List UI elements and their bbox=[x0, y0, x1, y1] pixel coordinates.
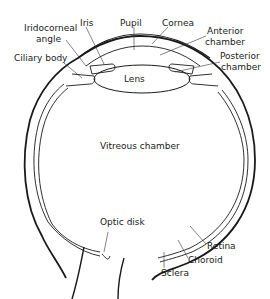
leader-retina bbox=[190, 226, 206, 244]
leader-ciliary bbox=[64, 63, 82, 78]
leader-iridocorneal bbox=[66, 40, 86, 66]
label-pupil: Pupil bbox=[120, 18, 142, 28]
label-anterior-1: Anterior bbox=[207, 26, 244, 36]
label-iridocorneal-2: angle bbox=[36, 34, 61, 44]
ciliary-body-left bbox=[66, 74, 95, 86]
label-anterior-2: chamber bbox=[205, 37, 245, 47]
leader-posterior bbox=[175, 62, 220, 72]
ciliary-body-right bbox=[189, 74, 218, 86]
label-cornea: Cornea bbox=[162, 18, 194, 28]
choroid-layer-right bbox=[158, 92, 244, 258]
iris-left bbox=[90, 64, 115, 74]
label-ciliary-body: Ciliary body bbox=[14, 53, 68, 63]
label-lens: Lens bbox=[124, 74, 145, 84]
label-sclera: Sclera bbox=[161, 268, 189, 278]
label-iris: Iris bbox=[80, 18, 94, 28]
label-retina: Retina bbox=[207, 241, 236, 251]
choroid-layer bbox=[34, 84, 64, 222]
label-posterior-2: chamber bbox=[221, 62, 261, 72]
cornea-inner bbox=[86, 46, 200, 66]
label-posterior-1: Posterior bbox=[220, 51, 260, 61]
label-optic-disk: Optic disk bbox=[100, 217, 146, 227]
retina-layer bbox=[39, 88, 68, 224]
label-iridocorneal-1: Iridocorneal bbox=[24, 23, 77, 33]
optic-disk-notch bbox=[102, 254, 110, 259]
iris-right bbox=[169, 64, 194, 74]
label-choroid: Choroid bbox=[188, 255, 223, 265]
retina-layer-right bbox=[160, 90, 248, 262]
inner-left-lower bbox=[48, 222, 100, 256]
optic-nerve bbox=[72, 247, 124, 299]
leader-iris bbox=[86, 27, 104, 64]
leader-optic-disk bbox=[104, 232, 108, 252]
label-vitreous: Vitreous chamber bbox=[100, 141, 180, 151]
eye-diagram: Iridocorneal angle Iris Pupil Cornea Ant… bbox=[0, 0, 270, 299]
